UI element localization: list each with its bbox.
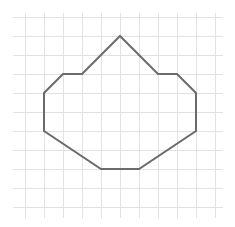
grid-diagram bbox=[0, 0, 235, 227]
